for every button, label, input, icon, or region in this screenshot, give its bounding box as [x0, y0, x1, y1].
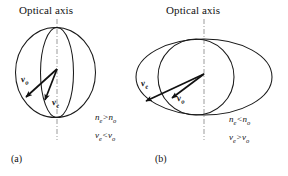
relation-index-a: ne>no	[95, 112, 116, 124]
optical-indicatrix-figure: Optical axis vo ve ne>no ve<vo (a) Optic…	[0, 0, 288, 176]
relation-velocity-b-right-sub: o	[246, 137, 249, 144]
vector-label-vo-a: vo	[20, 74, 28, 86]
vector-label-ve-a: ve	[51, 97, 59, 109]
relation-velocity-a: ve<vo	[95, 130, 115, 142]
velocity-vector-ve-b	[146, 74, 204, 101]
panel-tag-a: (a)	[11, 153, 22, 164]
relation-index-b: ne<no	[229, 114, 250, 126]
vector-label-ve-b-sub: e	[145, 82, 149, 89]
vector-label-vo-b-sub: o	[181, 97, 185, 104]
vector-label-ve-b: ve	[140, 78, 148, 90]
optical-axis-title-a: Optical axis	[19, 4, 73, 16]
panel-b-graphic	[136, 19, 272, 140]
relation-velocity-a-right-sub: o	[112, 135, 115, 142]
relation-index-b-right-sub: o	[247, 119, 250, 126]
vector-label-vo-b: vo	[176, 93, 184, 105]
vector-label-vo-a-sub: o	[25, 78, 29, 85]
relation-index-a-right-sub: o	[113, 117, 116, 124]
vector-label-ve-a-sub: e	[56, 101, 60, 108]
optical-axis-title-b: Optical axis	[166, 4, 220, 16]
relation-velocity-b: ve>vo	[229, 132, 249, 144]
panel-tag-b: (b)	[155, 153, 167, 164]
